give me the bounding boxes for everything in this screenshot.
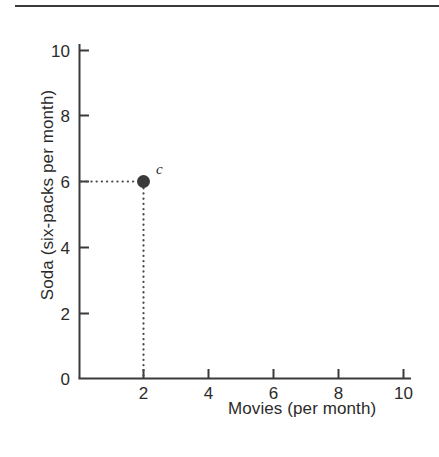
y-tick-label: 6 — [61, 173, 70, 192]
x-tick-label: 6 — [269, 384, 278, 403]
figure: Soda (six-packs per month) Movies (per m… — [0, 0, 439, 457]
y-tick-label: 8 — [61, 107, 70, 126]
y-tick-label: 10 — [51, 42, 70, 61]
data-point-label: c — [156, 161, 163, 177]
y-tick-label: 0 — [61, 370, 70, 389]
x-tick-label: 8 — [334, 384, 343, 403]
data-point-c[interactable] — [137, 175, 150, 188]
x-tick-label: 2 — [139, 384, 148, 403]
y-tick-label: 2 — [61, 305, 70, 324]
x-tick-label: 10 — [394, 384, 413, 403]
y-tick-label: 4 — [61, 239, 70, 258]
x-tick-label: 4 — [204, 384, 213, 403]
scatter-plot: 10 8 6 4 2 0 2 4 6 8 10 c — [0, 0, 439, 457]
x-axis-ticks — [144, 369, 404, 379]
